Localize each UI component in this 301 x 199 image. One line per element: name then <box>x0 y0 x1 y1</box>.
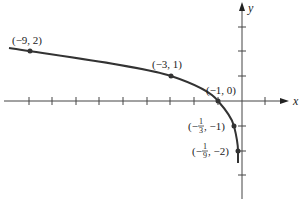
x-axis-arrow-icon <box>280 98 289 104</box>
svg-text:, −2): , −2) <box>208 145 229 158</box>
point-label: (−1, 0) <box>206 84 236 97</box>
x-axis-label: x <box>292 94 299 108</box>
point-marker <box>169 74 174 79</box>
point-label: (−3, 1) <box>152 58 182 71</box>
svg-text:1: 1 <box>203 142 207 151</box>
svg-text:1: 1 <box>199 117 203 126</box>
y-axis-label: y <box>247 1 254 15</box>
svg-text:(−: (− <box>192 145 202 158</box>
point-label: (−9, 2) <box>12 34 42 47</box>
point-marker <box>28 49 33 54</box>
svg-text:, −1): , −1) <box>204 120 225 133</box>
point-marker <box>232 124 237 129</box>
point-marker <box>236 149 241 154</box>
svg-text:(−: (− <box>188 120 198 133</box>
svg-text:3: 3 <box>199 126 203 135</box>
point-marker <box>216 99 221 104</box>
y-axis-arrow-icon <box>239 2 245 11</box>
point-label-frac: (− 1 3 , −1) <box>188 117 225 135</box>
function-graph: x y (−9, 2) (−3, 1) (−1, 0) (− 1 <box>0 0 301 199</box>
point-label-frac: (− 1 9 , −2) <box>192 142 229 160</box>
svg-text:9: 9 <box>203 151 207 160</box>
